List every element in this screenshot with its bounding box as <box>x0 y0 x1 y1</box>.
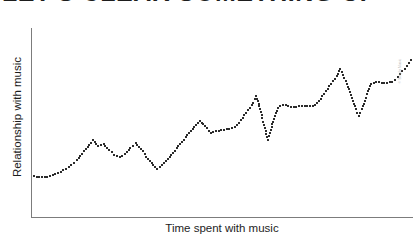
data-point <box>328 85 330 87</box>
data-point <box>238 122 240 124</box>
data-point <box>368 88 370 90</box>
data-point <box>348 88 350 90</box>
data-point <box>339 68 341 70</box>
data-point <box>271 126 273 128</box>
data-point <box>349 91 351 93</box>
data-point <box>306 105 308 107</box>
data-point <box>262 121 264 123</box>
data-point <box>350 94 352 96</box>
data-point <box>121 155 123 157</box>
data-point <box>174 150 176 152</box>
data-point <box>243 114 245 116</box>
data-point <box>366 93 368 95</box>
data-point <box>355 108 357 110</box>
data-point <box>258 103 260 105</box>
data-point <box>275 112 277 114</box>
data-point <box>176 147 178 149</box>
data-point <box>337 73 339 75</box>
data-point <box>68 166 70 168</box>
data-point <box>252 102 254 104</box>
data-point <box>165 160 167 162</box>
data-point <box>354 105 356 107</box>
data-point <box>347 86 349 88</box>
data-point <box>287 105 289 107</box>
data-point <box>119 156 121 158</box>
data-point <box>276 110 278 112</box>
data-point <box>320 98 322 100</box>
data-point <box>367 90 369 92</box>
data-point <box>79 155 81 157</box>
data-point <box>267 139 269 141</box>
data-point <box>195 124 197 126</box>
data-point <box>186 134 188 136</box>
data-point <box>343 77 345 79</box>
data-point <box>363 103 365 105</box>
data-point <box>268 135 270 137</box>
data-point <box>353 103 355 105</box>
watermark-text: © Simply Music <box>398 59 402 84</box>
data-point <box>163 162 165 164</box>
data-point <box>124 153 126 155</box>
data-point <box>177 145 179 147</box>
data-point <box>359 112 361 114</box>
data-point <box>193 126 195 128</box>
data-point <box>261 114 263 116</box>
data-point <box>78 157 80 159</box>
data-point <box>334 78 336 80</box>
data-point <box>260 111 262 113</box>
data-point <box>321 95 323 97</box>
data-point <box>183 139 185 141</box>
data-point <box>261 117 263 119</box>
data-point <box>258 105 260 107</box>
data-point <box>271 123 273 125</box>
data-point <box>179 143 181 145</box>
data-point <box>279 105 281 107</box>
data-point <box>274 115 276 117</box>
data-point <box>338 70 340 72</box>
data-point <box>188 132 190 134</box>
data-point <box>172 152 174 154</box>
data-point <box>318 100 320 102</box>
chart-title: LET'S CLEAR SOMETHING UP <box>2 0 377 7</box>
data-point <box>236 124 238 126</box>
chart-figure: LET'S CLEAR SOMETHING UP Relationship wi… <box>0 0 413 238</box>
data-point <box>259 108 261 110</box>
data-point <box>249 107 251 109</box>
data-point <box>128 149 130 151</box>
data-point <box>159 166 161 168</box>
data-point <box>325 90 327 92</box>
data-point <box>161 164 163 166</box>
data-point <box>70 164 72 166</box>
data-point <box>192 128 194 130</box>
data-point <box>327 88 329 90</box>
data-point <box>87 146 89 148</box>
data-point <box>364 100 366 102</box>
data-point <box>269 132 271 134</box>
data-point <box>129 147 131 149</box>
data-point <box>270 129 272 131</box>
data-point <box>181 141 183 143</box>
data-point <box>156 168 158 170</box>
data-point <box>272 121 274 123</box>
data-point <box>336 75 338 77</box>
data-point <box>362 105 364 107</box>
data-point <box>85 148 87 150</box>
data-point <box>265 130 267 132</box>
data-point <box>60 171 62 173</box>
data-point <box>265 133 267 135</box>
data-point <box>352 100 354 102</box>
chart-title-clipped: LET'S CLEAR SOMETHING UP <box>0 0 413 7</box>
data-point <box>345 80 347 82</box>
data-point <box>245 112 247 114</box>
y-axis-label: Relationship with music <box>6 22 28 212</box>
data-point <box>342 74 344 76</box>
data-point <box>41 176 43 178</box>
data-point <box>81 153 83 155</box>
data-point <box>369 85 371 87</box>
data-point <box>314 104 316 106</box>
data-point <box>242 117 244 119</box>
watermark: © Simply Music <box>393 56 407 86</box>
data-point <box>170 154 172 156</box>
data-point <box>277 107 279 109</box>
data-point <box>408 62 410 64</box>
